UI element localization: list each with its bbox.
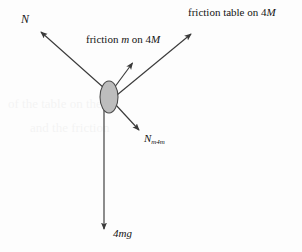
label-friction-m-symbol-M: M [151,33,160,45]
body-ellipse-4M [100,81,118,113]
label-weight-4mg: 4mg [113,228,132,239]
label-friction-m-prefix: friction [86,33,121,45]
force-vector-normal-m-on-4m [115,104,139,130]
label-friction-m-on-4M: friction m on 4M [86,34,160,45]
label-friction-table-prefix: friction table on 4 [188,6,267,18]
force-diagram-canvas: of the table on the 4 and the friction N… [0,0,302,252]
label-friction-m-symbol-m: m [121,33,129,45]
label-friction-table-on-4M: friction table on 4M [188,7,276,18]
label-normal-force-m-on-4M: Nm4m [144,133,165,146]
label-normal-force-table: N [21,13,29,25]
label-friction-table-symbol-M: M [267,6,276,18]
label-friction-m-middle: on 4 [129,33,151,45]
label-normal-table-symbol: N [21,12,29,26]
label-normal-m4m-subscript: m4m [151,138,164,146]
label-weight-symbol: mg [119,227,132,239]
